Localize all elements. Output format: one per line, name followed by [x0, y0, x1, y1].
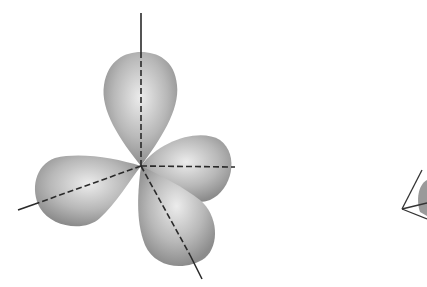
left-axis-solid	[18, 204, 35, 210]
sp3-orbital-diagram	[0, 0, 427, 287]
tetrahedron-figure	[402, 170, 427, 219]
left-lobe	[35, 156, 141, 227]
